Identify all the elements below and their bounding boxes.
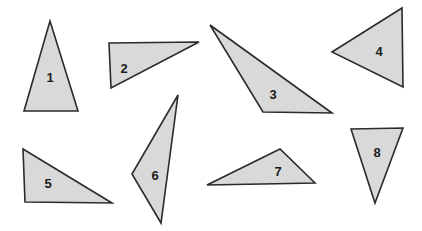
- triangle-label-2: 2: [120, 61, 127, 76]
- triangle-label-1: 1: [46, 70, 53, 85]
- triangle-label-5: 5: [44, 176, 51, 191]
- triangle-label-3: 3: [269, 87, 276, 102]
- triangle-label-8: 8: [373, 145, 380, 160]
- figure-canvas: 12345678: [0, 0, 422, 231]
- triangle-label-6: 6: [151, 168, 158, 183]
- triangles-figure: 12345678: [0, 0, 422, 231]
- triangle-label-7: 7: [274, 164, 281, 179]
- triangle-label-4: 4: [375, 44, 383, 59]
